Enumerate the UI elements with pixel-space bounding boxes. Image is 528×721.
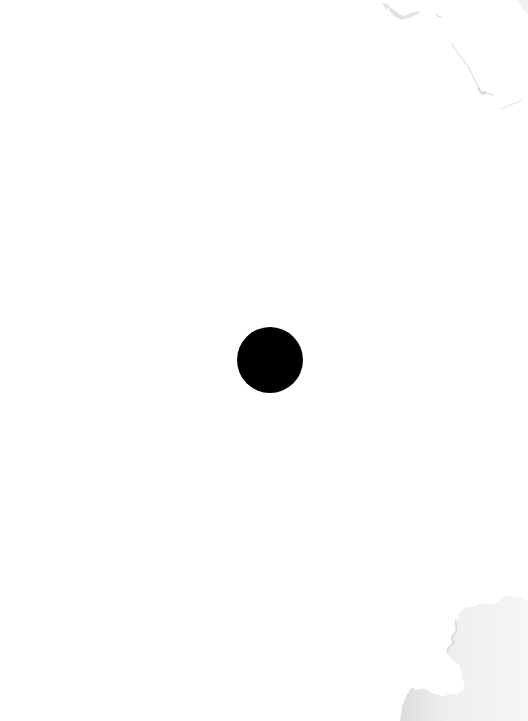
paper-sheet xyxy=(0,0,528,721)
black-dot xyxy=(237,327,303,393)
bottom-right-stain xyxy=(400,590,528,721)
top-right-stain xyxy=(380,0,528,130)
